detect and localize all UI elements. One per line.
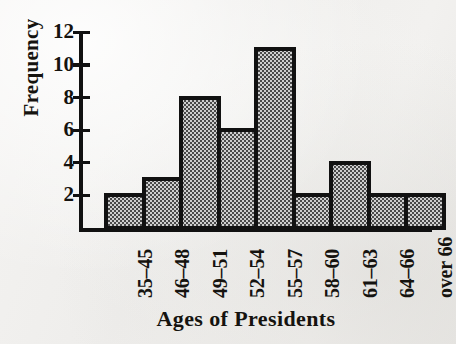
x-axis-tick-labels: 35–4546–4849–5152–5455–5758–6061–6364–66… — [0, 0, 456, 344]
x-tick-label: over 66 — [434, 237, 456, 298]
x-tick-label: 55–57 — [284, 249, 307, 298]
x-axis-title: Ages of Presidents — [96, 306, 396, 332]
x-tick-label: 64–66 — [396, 249, 419, 298]
x-tick-label: 61–63 — [359, 249, 382, 298]
x-tick-label: 52–54 — [246, 249, 269, 298]
x-tick-label: 35–45 — [134, 249, 157, 298]
x-tick-label: 49–51 — [209, 249, 232, 298]
histogram-figure: Frequency 24681012 35–4546–4849–5152–545… — [0, 0, 456, 344]
x-tick-label: 46–48 — [171, 249, 194, 298]
x-tick-label: 58–60 — [321, 249, 344, 298]
